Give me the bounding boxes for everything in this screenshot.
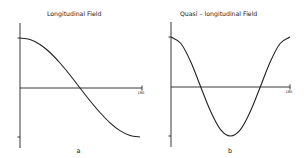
panel-b-curve — [171, 37, 290, 136]
panel-b-label: b — [228, 147, 232, 155]
panel-a-xtick-label: 180 — [138, 91, 146, 95]
panel-a-curve — [20, 38, 140, 137]
panel-a-label: a — [77, 147, 81, 155]
figure-canvas: Longitudinal Field 180 a Quasi – longitu… — [0, 0, 307, 158]
panel-b-xtick-label: 180 — [286, 90, 294, 94]
panel-b: Quasi – longitudinal Field 180 b — [169, 10, 294, 155]
panel-b-title: Quasi – longitudinal Field — [180, 10, 257, 18]
panel-a-title: Longitudinal Field — [47, 10, 101, 18]
panel-a: Longitudinal Field 180 a — [18, 10, 146, 155]
